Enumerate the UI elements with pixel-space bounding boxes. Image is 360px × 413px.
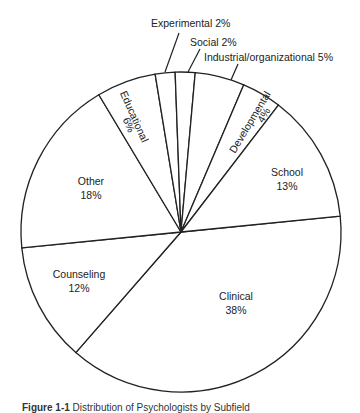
label-other-name: Other [78,175,105,187]
caption-text: Distribution of Psychologists by Subfiel… [73,402,250,413]
label-industrial: Industrial/organizational 5% [204,51,333,63]
caption-prefix: Figure 1-1 [22,402,70,413]
label-clinical-name: Clinical [219,290,253,302]
leader-line-experimental [165,33,179,72]
pie-slices [21,72,341,392]
label-counseling-pct: 12% [68,282,89,294]
label-social: Social 2% [190,36,237,48]
label-school-name: School [271,166,303,178]
label-clinical-pct: 38% [225,304,246,316]
label-experimental: Experimental 2% [151,17,230,29]
label-school-pct: 13% [276,180,297,192]
leader-line-industrial [231,64,238,80]
figure-caption: Figure 1-1 Distribution of Psychologists… [22,402,250,413]
label-other-pct: 18% [80,189,101,201]
leader-line-social [188,49,200,72]
label-counseling-name: Counseling [53,268,106,280]
